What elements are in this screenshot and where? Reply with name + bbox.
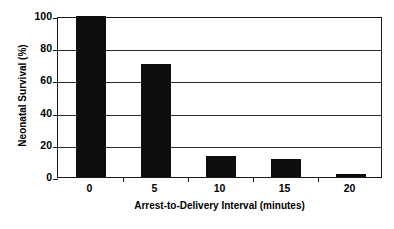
y-axis-tick-label: 40 — [26, 108, 52, 119]
y-axis-tick-mark — [53, 147, 58, 148]
y-axis-tick-label: 100 — [26, 11, 52, 22]
bar-chart: Neonatal Survival (%) 020406080100 05101… — [0, 0, 394, 229]
x-axis-tick-mark — [123, 177, 124, 182]
x-axis-tick-labels: 05101520 — [57, 183, 382, 199]
x-axis-tick-label: 0 — [70, 183, 110, 194]
bar — [76, 16, 106, 177]
y-axis-tick-labels: 020406080100 — [22, 0, 52, 229]
gridline — [58, 50, 381, 51]
x-axis-tick-label: 5 — [135, 183, 175, 194]
y-axis-tick-mark — [53, 115, 58, 116]
y-axis-tick-label: 0 — [26, 172, 52, 183]
y-axis-tick-mark — [53, 18, 58, 19]
y-axis-tick-label: 20 — [26, 140, 52, 151]
bar — [271, 159, 301, 178]
gridline — [58, 115, 381, 116]
y-axis-tick-label: 80 — [26, 43, 52, 54]
x-axis-tick-label: 10 — [200, 183, 240, 194]
x-axis-tick-label: 20 — [330, 183, 370, 194]
x-axis-tick-mark — [253, 177, 254, 182]
y-axis-tick-mark — [53, 82, 58, 83]
x-axis-tick-mark — [188, 177, 189, 182]
x-axis-tick-mark — [318, 177, 319, 182]
gridline — [58, 147, 381, 148]
bar — [206, 156, 236, 177]
y-axis-tick-mark — [53, 50, 58, 51]
x-axis-title: Arrest-to-Delivery Interval (minutes) — [57, 200, 382, 211]
bar — [141, 64, 171, 177]
gridline — [58, 82, 381, 83]
y-axis-tick-label: 60 — [26, 75, 52, 86]
bar — [336, 174, 366, 177]
plot-area — [57, 17, 382, 178]
y-axis-tick-mark — [53, 179, 58, 180]
x-axis-tick-label: 15 — [265, 183, 305, 194]
